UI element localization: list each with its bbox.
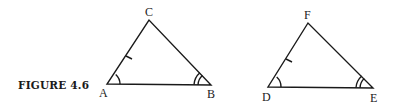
angle-arc-b-inner [198, 76, 202, 85]
triangle-abc-outline [107, 20, 211, 85]
tick-mark-df [286, 59, 292, 62]
tick-mark-ac [126, 56, 132, 59]
vertex-label-a: A [99, 86, 108, 100]
vertex-label-d: D [262, 90, 271, 104]
triangle-abc-labels: C A B [99, 5, 215, 101]
vertex-label-f: F [304, 8, 311, 22]
vertex-label-e: E [370, 91, 377, 105]
triangle-def-labels: F D E [262, 8, 377, 105]
angle-arc-a [116, 74, 120, 84]
vertex-label-b: B [207, 87, 215, 101]
triangle-def [268, 23, 373, 88]
congruent-triangles-diagram: C A B F D E [0, 0, 395, 111]
triangle-def-outline [268, 23, 373, 88]
angle-arc-e-inner [360, 79, 364, 88]
triangle-abc [107, 20, 211, 85]
vertex-label-c: C [145, 5, 153, 19]
angle-arc-d [277, 77, 281, 87]
